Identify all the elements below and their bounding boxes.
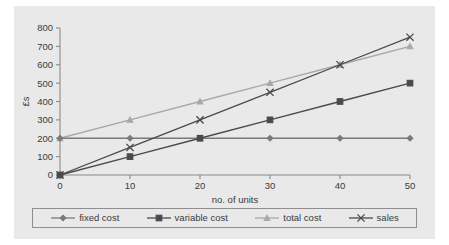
triangle-marker: [407, 44, 413, 49]
legend-item-label: fixed cost: [79, 213, 119, 223]
cross-marker: [196, 116, 203, 123]
legend-item-label: variable cost: [175, 213, 228, 223]
series-variable-cost: [57, 80, 413, 177]
y-tick-label: 800: [37, 22, 53, 33]
square-marker: [407, 80, 413, 86]
chart-legend: fixed costvariable costtotal costsales: [32, 208, 417, 228]
diamond-marker: [267, 135, 273, 141]
cross-marker: [126, 144, 133, 151]
square-marker: [267, 117, 273, 123]
x-tick-label: 20: [195, 180, 206, 191]
x-axis-tick-group: 01020304050: [57, 175, 415, 191]
triangle-marker: [127, 117, 133, 122]
data-series-group: [56, 34, 413, 179]
square-marker: [197, 135, 203, 141]
cross-marker: [348, 212, 374, 224]
triangle-marker: [197, 99, 203, 104]
series-line: [60, 46, 410, 138]
diamond-marker: [60, 215, 66, 221]
legend-item-label: total cost: [283, 213, 321, 223]
diamond-marker: [50, 212, 76, 224]
triangle-marker: [267, 80, 273, 85]
legend-item-total-cost[interactable]: total cost: [254, 212, 321, 224]
y-tick-label: 600: [37, 59, 53, 70]
y-tick-label: 0: [48, 169, 53, 180]
x-tick-label: 30: [265, 180, 276, 191]
chart-container: 0100200300400500600700800 01020304050 £s…: [14, 6, 435, 239]
triangle-marker: [254, 212, 280, 224]
line-chart-plot: 0100200300400500600700800 01020304050 £s…: [14, 6, 435, 239]
legend-item-fixed-cost[interactable]: fixed cost: [50, 212, 119, 224]
series-line: [60, 37, 410, 175]
diamond-marker: [337, 135, 343, 141]
legend-item-variable-cost[interactable]: variable cost: [146, 212, 228, 224]
x-tick-label: 10: [125, 180, 136, 191]
square-marker: [146, 212, 172, 224]
legend-item-label: sales: [377, 213, 399, 223]
series-line: [60, 83, 410, 175]
x-tick-label: 40: [335, 180, 346, 191]
diamond-marker: [407, 135, 413, 141]
y-tick-label: 700: [37, 41, 53, 52]
legend-item-sales[interactable]: sales: [348, 212, 399, 224]
x-axis-title: no. of units: [212, 194, 259, 205]
y-tick-label: 100: [37, 151, 53, 162]
series-total-cost: [57, 44, 413, 141]
y-tick-label: 200: [37, 133, 53, 144]
triangle-marker: [264, 215, 270, 220]
square-marker: [337, 99, 343, 105]
cross-marker: [266, 89, 273, 96]
y-tick-label: 300: [37, 114, 53, 125]
x-tick-label: 0: [57, 180, 62, 191]
cross-marker: [406, 34, 413, 41]
y-axis-title: £s: [20, 96, 31, 106]
x-tick-label: 50: [405, 180, 416, 191]
series-sales: [56, 34, 413, 179]
y-axis-tick-group: 0100200300400500600700800: [37, 22, 60, 180]
y-tick-label: 500: [37, 78, 53, 89]
square-marker: [156, 215, 162, 221]
square-marker: [127, 154, 133, 160]
series-fixed-cost: [57, 135, 413, 141]
diamond-marker: [127, 135, 133, 141]
y-tick-label: 400: [37, 96, 53, 107]
